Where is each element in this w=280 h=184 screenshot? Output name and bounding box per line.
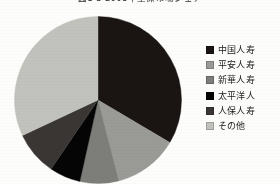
legend-color-swatch [206,92,214,100]
legend-item-label: 太平洋人 [218,90,255,102]
pie-chart-area [14,16,182,184]
legend-item: 中国人寿 [206,44,280,56]
legend-item-label: 新華人寿 [218,74,255,86]
legend-item-label: 平安人寿 [218,59,255,71]
legend-color-swatch [206,122,214,130]
chart-title: 図1-3 2008年生保市場シェア [0,0,280,4]
chart-legend: 中国人寿平安人寿新華人寿太平洋人人保人寿その他 [206,44,280,132]
legend-item: 新華人寿 [206,74,280,86]
legend-color-swatch [206,76,214,84]
chart-page: 図1-3 2008年生保市場シェア 中国人寿平安人寿新華人寿太平洋人人保人寿その… [0,0,280,184]
legend-item-label: 人保人寿 [218,105,255,117]
legend-item-label: 中国人寿 [218,44,255,56]
legend-color-swatch [206,107,214,115]
legend-item-label: その他 [218,120,246,132]
legend-item: 太平洋人 [206,90,280,102]
legend-color-swatch [206,46,214,54]
pie-slice-group [15,17,182,184]
legend-item: 人保人寿 [206,105,280,117]
legend-item: その他 [206,120,280,132]
pie-chart [14,16,182,184]
pie-svg [14,16,182,184]
legend-color-swatch [206,61,214,69]
legend-item: 平安人寿 [206,59,280,71]
